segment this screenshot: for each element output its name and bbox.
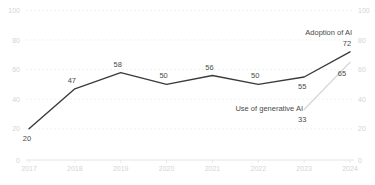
series-label-use-of-generative-ai: Use of generative AI [235, 104, 303, 113]
y-tick-label-right-60: 60 [358, 66, 366, 73]
data-label-series0-2021: 56 [205, 63, 213, 72]
y-tick-label-left-80: 80 [12, 37, 20, 44]
x-tick-label-2017: 2017 [21, 165, 37, 172]
data-label-series0-2022: 50 [251, 71, 259, 80]
y-tick-label-right-80: 80 [358, 37, 366, 44]
x-tick-label-2018: 2018 [67, 165, 83, 172]
y-tick-label-left-100: 100 [8, 7, 20, 14]
series-label-adoption-of-ai: Adoption of AI [305, 28, 352, 37]
y-tick-label-left-60: 60 [12, 66, 20, 73]
data-label-series1-2023: 33 [298, 115, 306, 124]
x-tick-label-2020: 2020 [159, 165, 175, 172]
data-label-series1-2024: 65 [338, 69, 346, 78]
data-label-series0-2024: 72 [343, 39, 351, 48]
data-label-series0-2019: 58 [114, 60, 122, 69]
y-tick-label-right-20: 20 [358, 125, 366, 132]
data-label-series0-2018: 47 [68, 76, 76, 85]
ai-adoption-line-chart: 0020204040606080801001002017201820192020… [0, 0, 375, 185]
y-tick-label-right-0: 0 [358, 157, 362, 164]
y-tick-label-right-100: 100 [358, 7, 370, 14]
x-tick-label-2024: 2024 [342, 165, 358, 172]
y-tick-label-left-40: 40 [12, 96, 20, 103]
data-label-series0-2017: 20 [23, 134, 31, 143]
x-tick-label-2021: 2021 [205, 165, 221, 172]
y-tick-label-left-0: 0 [16, 157, 20, 164]
x-tick-label-2023: 2023 [296, 165, 312, 172]
data-label-series0-2020: 50 [159, 71, 167, 80]
y-tick-label-right-40: 40 [358, 96, 366, 103]
x-tick-label-2022: 2022 [250, 165, 266, 172]
data-label-series0-2023: 55 [298, 82, 306, 91]
y-tick-label-left-20: 20 [12, 125, 20, 132]
x-tick-label-2019: 2019 [113, 165, 129, 172]
